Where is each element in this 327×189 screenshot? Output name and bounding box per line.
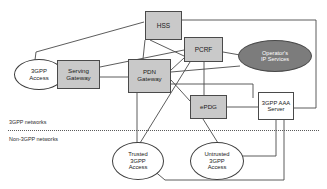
- zone-label-3gpp: 3GPP networks: [9, 119, 46, 125]
- node-pcrf[interactable]: PCRF: [184, 37, 223, 62]
- node-trusted-3gpp-access[interactable]: Trusted 3GPP Access: [112, 142, 164, 180]
- node-trusted-3gpp-access-label: Trusted 3GPP Access: [113, 151, 163, 170]
- link-pcrf-pdn-gw: [171, 58, 184, 70]
- node-3gpp-access-label: 3GPP Access: [15, 68, 63, 81]
- node-3gpp-aaa-server-label: 3GPP AAA Server: [259, 100, 293, 113]
- network-architecture-diagram: HSS PCRF Operator's IP Services 3GPP Acc…: [0, 0, 327, 189]
- node-pdn-gateway-label: PDN Gateway: [129, 69, 170, 83]
- node-untrusted-3gpp-access-label: Untrusted 3GPP Access: [191, 151, 243, 170]
- link-epdg-untrusted: [203, 119, 218, 143]
- node-serving-gateway[interactable]: Serving Gateway: [57, 60, 100, 89]
- zone-divider-line: [8, 130, 319, 131]
- link-hss-pdn-gw-left: [143, 40, 145, 59]
- node-pdn-gateway[interactable]: PDN Gateway: [128, 59, 171, 93]
- link-aaa-server-untrusted: [240, 120, 276, 156]
- node-hss-label: HSS: [146, 22, 181, 29]
- link-pdn-gw-operator-ip: [171, 66, 240, 72]
- node-serving-gateway-label: Serving Gateway: [58, 68, 99, 82]
- zone-label-non-3gpp: Non-3GPP networks: [9, 136, 58, 142]
- node-epdg[interactable]: ePDG: [190, 95, 227, 119]
- node-untrusted-3gpp-access[interactable]: Untrusted 3GPP Access: [190, 142, 244, 180]
- link-3gpp-access-hss: [35, 22, 144, 60]
- node-epdg-label: ePDG: [191, 104, 226, 111]
- node-pcrf-label: PCRF: [185, 46, 222, 53]
- node-operator-ip-services-label: Operator's IP Services: [239, 50, 311, 63]
- node-operator-ip-services[interactable]: Operator's IP Services: [238, 40, 312, 72]
- link-pdn-gw-epdg: [171, 80, 190, 101]
- node-3gpp-aaa-server[interactable]: 3GPP AAA Server: [258, 92, 294, 120]
- node-hss[interactable]: HSS: [145, 11, 182, 40]
